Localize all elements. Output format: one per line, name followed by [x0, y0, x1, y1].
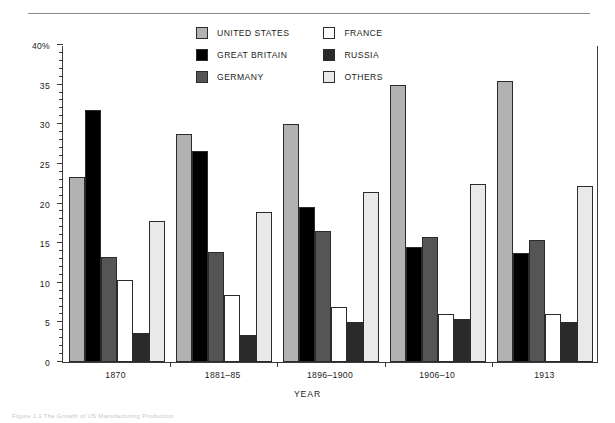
- bar: [513, 253, 529, 362]
- plot-inner: [63, 46, 597, 362]
- x-axis-title: YEAR: [0, 389, 615, 399]
- y-tick-label: 10: [40, 279, 50, 289]
- y-tick-minor: [59, 218, 63, 219]
- bar: [561, 322, 577, 362]
- y-tick-minor: [59, 147, 63, 148]
- y-tick-minor: [59, 226, 63, 227]
- x-tick-label: 1870: [105, 370, 126, 380]
- bar: [208, 252, 224, 362]
- y-tick-minor: [59, 290, 63, 291]
- y-tick-minor: [59, 99, 63, 100]
- y-tick-minor: [59, 115, 63, 116]
- x-tick-label: 1906–10: [419, 370, 455, 380]
- y-tick-minor: [59, 234, 63, 235]
- y-tick-major: [57, 44, 63, 45]
- y-tick-minor: [59, 258, 63, 259]
- y-tick-label: 35: [40, 81, 50, 91]
- y-tick-minor: [59, 187, 63, 188]
- bar: [406, 247, 422, 362]
- bar: [69, 177, 85, 362]
- bar: [390, 85, 406, 362]
- legend-item-united_states: UNITED STATES: [196, 27, 289, 39]
- y-tick-major: [57, 123, 63, 124]
- bar: [363, 192, 379, 362]
- y-tick-minor: [59, 298, 63, 299]
- y-tick-minor: [59, 337, 63, 338]
- legend-swatch-france: [323, 27, 335, 39]
- bar-group: [283, 46, 379, 362]
- y-axis-labels: PERCENTAGE (world) 0510152025303540%: [0, 46, 58, 363]
- plot-area: [62, 46, 598, 363]
- bar: [192, 151, 208, 362]
- bar: [224, 295, 240, 362]
- bar: [545, 314, 561, 362]
- y-tick-minor: [59, 131, 63, 132]
- y-tick-minor: [59, 306, 63, 307]
- legend-label-france: FRANCE: [344, 28, 382, 38]
- y-tick-minor: [59, 52, 63, 53]
- x-tick: [385, 362, 386, 367]
- y-tick-minor: [59, 68, 63, 69]
- bar: [422, 237, 438, 362]
- bar: [240, 335, 256, 362]
- y-tick-minor: [59, 313, 63, 314]
- y-tick-label: 30: [40, 120, 50, 130]
- bar: [299, 207, 315, 362]
- y-tick-major: [57, 203, 63, 204]
- bar: [331, 307, 347, 362]
- bar: [133, 333, 149, 362]
- figure-caption: Figure 1.1 The Growth of US Manufacturin…: [12, 412, 572, 419]
- x-axis-labels: 18701881–851896–19001906–101913: [62, 370, 598, 384]
- bar-group: [69, 46, 165, 362]
- y-tick-major: [57, 321, 63, 322]
- y-tick-minor: [59, 171, 63, 172]
- y-tick-minor: [59, 195, 63, 196]
- y-tick-minor: [59, 92, 63, 93]
- bar: [149, 221, 165, 362]
- bar: [117, 280, 133, 362]
- y-tick-minor: [59, 76, 63, 77]
- legend-swatch-united_states: [196, 27, 208, 39]
- y-tick-minor: [59, 210, 63, 211]
- x-tick: [170, 362, 171, 367]
- bar: [315, 231, 331, 362]
- bar: [176, 134, 192, 362]
- bar: [256, 212, 272, 362]
- y-tick-major: [57, 242, 63, 243]
- figure-page: UNITED STATESFRANCEGREAT BRITAINRUSSIAGE…: [0, 0, 615, 423]
- bar: [283, 124, 299, 362]
- bar-group: [176, 46, 272, 362]
- y-tick-minor: [59, 250, 63, 251]
- y-tick-label: 5: [45, 318, 50, 328]
- y-tick-minor: [59, 107, 63, 108]
- y-tick-minor: [59, 329, 63, 330]
- y-tick-minor: [59, 60, 63, 61]
- y-tick-minor: [59, 266, 63, 267]
- bar-group: [497, 46, 593, 362]
- legend-label-united_states: UNITED STATES: [217, 28, 289, 38]
- x-tick: [277, 362, 278, 367]
- y-tick-label: 20: [40, 200, 50, 210]
- bar: [347, 322, 363, 362]
- x-tick-label: 1913: [534, 370, 555, 380]
- y-tick-major: [57, 361, 63, 362]
- bar: [470, 184, 486, 362]
- y-tick-minor: [59, 139, 63, 140]
- y-tick-minor: [59, 345, 63, 346]
- bar: [85, 110, 101, 362]
- bar: [529, 240, 545, 362]
- x-tick: [492, 362, 493, 367]
- bar: [454, 319, 470, 362]
- bar: [577, 186, 593, 362]
- y-tick-minor: [59, 179, 63, 180]
- y-tick-minor: [59, 353, 63, 354]
- y-tick-minor: [59, 274, 63, 275]
- bar-group: [390, 46, 486, 362]
- y-tick-major: [57, 163, 63, 164]
- y-tick-label: 40%: [32, 41, 50, 51]
- bar: [497, 81, 513, 362]
- legend-item-france: FRANCE: [323, 27, 383, 39]
- top-rule: [28, 13, 590, 14]
- y-tick-label: 15: [40, 239, 50, 249]
- x-tick-label: 1896–1900: [307, 370, 353, 380]
